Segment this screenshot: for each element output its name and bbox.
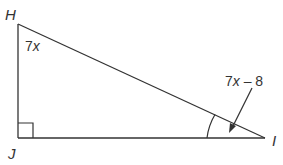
right-triangle-diagram: H J I 7x 7x – 8 xyxy=(0,0,283,165)
vertex-label-j: J xyxy=(7,145,16,162)
angle-label-h: 7x xyxy=(25,38,41,54)
angle-h-var: x xyxy=(32,38,41,54)
angle-arc-i xyxy=(207,115,215,139)
angle-i-coef: 7 xyxy=(225,73,233,89)
right-angle-marker xyxy=(18,123,33,138)
angle-i-rest: – 8 xyxy=(240,73,264,89)
vertex-label-h: H xyxy=(5,6,16,23)
angle-label-i: 7x – 8 xyxy=(225,73,263,89)
angle-h-coef: 7 xyxy=(25,38,33,54)
arrow-line xyxy=(232,88,252,128)
vertex-label-i: I xyxy=(272,132,276,149)
